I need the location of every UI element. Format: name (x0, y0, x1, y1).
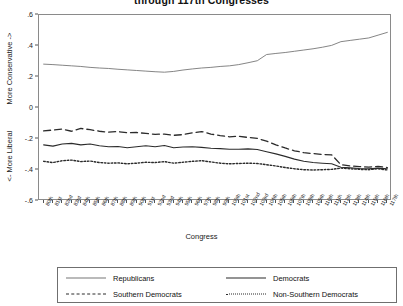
legend-label-democrats: Democrats (266, 274, 309, 283)
plot-area (38, 14, 391, 200)
x-tick-mark (321, 200, 322, 203)
y-tick-label: .4 (11, 42, 33, 49)
chart-container: through 117th Congresses <- More Liberal… (0, 0, 403, 306)
legend-label-non-southern-democrats: Non-Southern Democrats (266, 290, 358, 299)
legend-item-non-southern-democrats: Non-Southern Democrats (226, 287, 358, 301)
chart-legend: Republicans Democrats Southern Democrats… (57, 267, 397, 303)
y-tick-label: .2 (11, 73, 33, 80)
legend-label-southern-democrats: Southern Democrats (106, 290, 182, 299)
x-tick-mark (386, 200, 387, 203)
y-tick-label: -.2 (11, 135, 33, 142)
y-tick-label: -.6 (11, 197, 33, 204)
legend-swatch-republicans-icon (66, 274, 106, 282)
x-tick-mark (98, 200, 99, 203)
x-tick-mark (154, 200, 155, 203)
x-axis-title: Congress (0, 232, 403, 241)
x-tick-mark (61, 200, 62, 203)
x-tick-mark (219, 200, 220, 203)
x-tick-mark (284, 200, 285, 203)
x-tick-mark (312, 200, 313, 203)
x-tick-mark (126, 200, 127, 203)
legend-item-southern-democrats: Southern Democrats (66, 287, 182, 301)
y-tick-label: 0 (11, 104, 33, 111)
series-line-republicans (44, 32, 388, 72)
legend-swatch-southern-democrats-icon (66, 290, 106, 298)
legend-item-democrats: Democrats (226, 271, 309, 285)
plot-lines (39, 15, 392, 201)
legend-swatch-democrats-icon (226, 274, 266, 282)
legend-item-republicans: Republicans (66, 271, 154, 285)
legend-label-republicans: Republicans (106, 274, 154, 283)
legend-swatch-non-southern-democrats-icon (226, 290, 266, 298)
series-line-democrats (44, 143, 388, 168)
x-tick-mark (349, 200, 350, 203)
x-tick-mark (256, 200, 257, 203)
y-tick-label: .6 (11, 11, 33, 18)
x-tick-mark (89, 200, 90, 203)
chart-title: through 117th Congresses (0, 0, 403, 8)
x-tick-mark (377, 200, 378, 203)
x-tick-mark (247, 200, 248, 203)
y-tick-label: -.4 (11, 166, 33, 173)
x-tick-mark (191, 200, 192, 203)
